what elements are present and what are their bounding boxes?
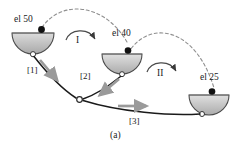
figure-caption: (a) [110, 131, 121, 141]
phase-arrow-I [66, 31, 95, 40]
bowl-el25 [189, 88, 229, 116]
bowl-el50 [12, 26, 54, 57]
energy-level-diagram: el 50 el 40 el 25 I II [1] [2] [3] (a) [0, 0, 240, 148]
bowl-el40-basin [102, 54, 142, 74]
motion-arrow-2 [100, 79, 119, 95]
junction-node [77, 97, 83, 103]
bowl-el50-basin [12, 33, 54, 54]
phase-label-II: II [157, 69, 163, 79]
bowl-label-el40: el 40 [112, 29, 131, 39]
bowl-el25-basin [189, 95, 229, 115]
ball-el40 [125, 47, 132, 54]
node-el50 [30, 52, 35, 57]
segment-label-2: [2] [80, 72, 91, 81]
connector-segment-3 [83, 101, 200, 115]
bowl-label-el50: el 50 [14, 15, 33, 25]
motion-arrow-1 [40, 60, 57, 80]
bowl-el40 [102, 47, 142, 76]
segment-label-3: [3] [129, 117, 140, 126]
ball-el25 [209, 88, 216, 95]
ball-el50 [38, 26, 45, 33]
phase-label-I: I [76, 36, 79, 46]
bowl-label-el25: el 25 [200, 73, 219, 83]
segment-label-1: [1] [27, 66, 38, 75]
